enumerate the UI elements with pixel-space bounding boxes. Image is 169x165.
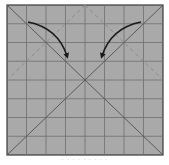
diagram-caption: · · · · · · · · ·: [0, 155, 169, 165]
origami-diagram: [0, 0, 169, 165]
